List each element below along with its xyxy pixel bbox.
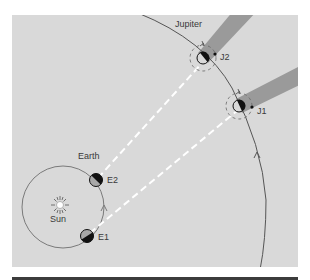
orbit-diagram: Jupiter Earth Sun E2 E1 J2 J1	[0, 0, 310, 280]
label-earth: Earth	[78, 151, 100, 161]
label-jupiter: Jupiter	[175, 19, 202, 29]
earth-e2-icon	[90, 173, 103, 186]
label-e2: E2	[107, 175, 118, 185]
label-j2: J2	[220, 52, 230, 62]
earth-e1-icon	[81, 230, 94, 243]
label-sun: Sun	[50, 214, 66, 224]
diagram-panel	[12, 15, 298, 267]
label-j1: J1	[257, 106, 267, 116]
label-e1: E1	[98, 232, 109, 242]
